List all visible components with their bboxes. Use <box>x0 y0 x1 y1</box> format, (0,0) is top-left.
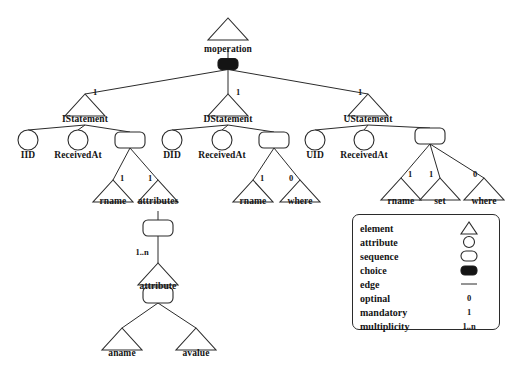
multiplicity-label-U_where: 0 <box>473 169 477 179</box>
node-label-attribute: attribute <box>140 281 177 291</box>
multiplicity-label-D_rname: 1 <box>260 173 264 183</box>
legend-label-optinal: optinal <box>360 293 390 304</box>
node-element-aname <box>102 328 142 350</box>
node-label-I_rname: rname <box>100 196 127 206</box>
legend-row-attribute: attribute <box>353 235 501 249</box>
multiplicity-label-U_set: 1 <box>429 169 433 179</box>
edge-DStatement-to-D_seq <box>228 125 274 132</box>
multiplicity-label-DStatement: 1 <box>236 87 240 97</box>
edge-IStatement-to-I_seq <box>85 125 130 132</box>
node-label-IID: IID <box>21 150 36 160</box>
node-attribute-UID <box>305 130 325 150</box>
edge-IStatement-to-IID <box>28 125 85 130</box>
node-label-DID: DID <box>163 150 181 160</box>
node-label-UStatement: UStatement <box>343 114 392 124</box>
legend-label-choice: choice <box>360 265 387 276</box>
node-element-avalue <box>176 328 216 350</box>
edge-UStatement-to-UID <box>315 125 368 130</box>
legend-glyph-roundrect <box>461 251 477 261</box>
legend: elementattributesequencechoiceedgeoptina… <box>352 214 500 330</box>
edge-U_seq-to-U_rname <box>401 144 430 178</box>
node-element-DStatement <box>208 94 248 116</box>
multiplicity-label-U_rname: 1 <box>408 169 412 179</box>
multiplicity-label-attribute: 1..n <box>135 247 148 257</box>
legend-label-attribute: attribute <box>360 237 398 248</box>
node-choice-root_choice <box>218 59 238 70</box>
legend-symbol-roundrect-icon <box>445 249 493 263</box>
node-label-U_set: set <box>434 196 445 206</box>
multiplicity-label-I_attributes: 1 <box>148 173 152 183</box>
legend-row-mandatory: mandatory1 <box>353 305 501 319</box>
multiplicity-label-IStatement: 1 <box>93 87 97 97</box>
legend-label-edge: edge <box>360 279 379 290</box>
node-element-moperation <box>208 18 248 40</box>
node-label-I_attributes: attributes <box>138 196 179 206</box>
legend-row-element: element <box>353 221 501 235</box>
multiplicity-label-UStatement: 1 <box>358 87 362 97</box>
edge-root_choice-to-IStatement <box>85 70 228 95</box>
edge-attribute_seq-to-aname <box>122 303 158 328</box>
edge-root_choice-to-UStatement <box>228 70 368 95</box>
node-attribute-U_ReceivedAt <box>354 130 374 150</box>
multiplicity-label-D_where: 0 <box>289 173 293 183</box>
legend-symbol-filled-icon <box>445 263 493 277</box>
node-attribute-D_ReceivedAt <box>212 130 232 150</box>
schema-tree-diagram: moperationIStatement1DStatement1UStateme… <box>0 0 518 365</box>
legend-glyph-circle <box>464 237 475 248</box>
legend-label-multiplicity: multiplicity <box>360 321 409 332</box>
node-attribute-IID <box>18 130 38 150</box>
node-sequence-D_seq <box>259 132 289 148</box>
node-sequence-attributes_seq <box>143 220 173 236</box>
legend-row-multiplicity: multiplicity1..n <box>353 319 501 333</box>
legend-row-optinal: optinal0 <box>353 291 501 305</box>
legend-glyph-filled <box>461 266 477 275</box>
node-element-UStatement <box>348 94 388 116</box>
node-label-D_ReceivedAt: ReceivedAt <box>198 150 245 160</box>
legend-label-element: element <box>360 223 393 234</box>
legend-value-multiplicity: 1..n <box>445 321 493 331</box>
legend-symbol-line-icon <box>445 277 493 291</box>
edge-I_seq-to-I_attributes <box>130 148 158 180</box>
node-label-moperation: moperation <box>204 44 252 54</box>
node-sequence-U_seq <box>415 128 445 144</box>
node-label-IStatement: IStatement <box>62 114 108 124</box>
legend-label-sequence: sequence <box>360 251 398 262</box>
node-label-D_where: where <box>287 196 312 206</box>
node-label-avalue: avalue <box>183 348 210 358</box>
legend-value-mandatory: 1 <box>445 307 493 317</box>
multiplicity-label-I_rname: 1 <box>120 173 124 183</box>
edge-attribute_seq-to-avalue <box>158 303 196 328</box>
node-label-I_ReceivedAt: ReceivedAt <box>54 150 101 160</box>
legend-glyph-triangle <box>461 222 477 234</box>
node-label-U_rname: rname <box>388 196 415 206</box>
legend-symbol-triangle-icon <box>445 221 493 235</box>
legend-label-mandatory: mandatory <box>360 307 407 318</box>
node-label-U_where: where <box>471 196 496 206</box>
legend-value-optinal: 0 <box>445 293 493 303</box>
node-label-D_rname: rname <box>240 196 267 206</box>
node-label-UID: UID <box>306 150 324 160</box>
node-label-DStatement: DStatement <box>203 114 252 124</box>
node-attribute-I_ReceivedAt <box>68 130 88 150</box>
legend-symbol-circle-icon <box>445 235 493 249</box>
node-label-U_ReceivedAt: ReceivedAt <box>340 150 387 160</box>
legend-row-edge: edge <box>353 277 501 291</box>
node-label-aname: aname <box>108 348 135 358</box>
edge-DStatement-to-DID <box>172 125 228 130</box>
node-sequence-I_seq <box>115 132 145 148</box>
edge-D_seq-to-D_where <box>274 148 300 180</box>
legend-row-sequence: sequence <box>353 249 501 263</box>
node-element-IStatement <box>65 94 105 116</box>
node-attribute-DID <box>162 130 182 150</box>
legend-row-choice: choice <box>353 263 501 277</box>
